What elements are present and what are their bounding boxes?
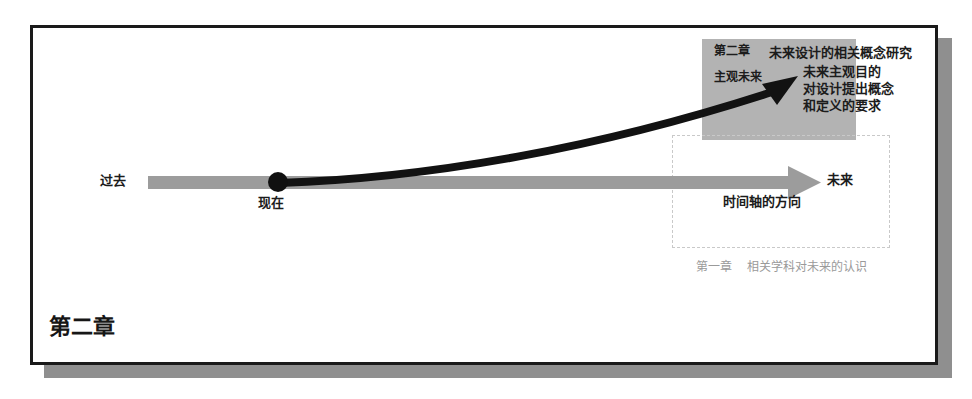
highlight-chapter-tag: 第二章	[714, 44, 750, 60]
timeline-direction-label: 时间轴的方向	[723, 193, 801, 210]
growth-curve-arrow	[279, 76, 798, 183]
timeline-now-label: 现在	[258, 194, 284, 211]
study-description-text: 未来主观目的 对设计提出概念 和定义的要求	[803, 63, 894, 114]
timeline-axis-arrow	[148, 166, 821, 199]
figure-chapter-title: 第二章	[49, 312, 115, 341]
subjective-future-label: 主观未来	[714, 70, 762, 86]
figure-root: 第二章 主观未来 未来设计的相关概念研究 未来主观目的 对设计提出概念 和定义的…	[0, 0, 972, 399]
timeline-past-label: 过去	[100, 172, 126, 189]
present-moment-dot	[268, 172, 288, 192]
study-title-text: 未来设计的相关概念研究	[769, 44, 912, 61]
figure-content-layer: 第二章 主观未来 未来设计的相关概念研究 未来主观目的 对设计提出概念 和定义的…	[0, 0, 972, 399]
timeline-future-label: 未来	[827, 171, 853, 188]
chapter1-scope-caption: 第一章 相关学科对未来的认识	[696, 260, 867, 276]
